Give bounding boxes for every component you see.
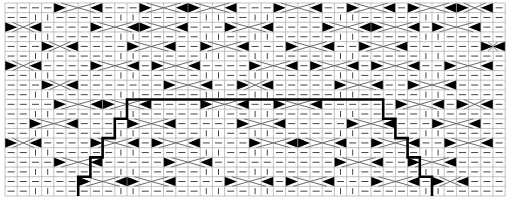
- knitting-chart: [0, 0, 514, 206]
